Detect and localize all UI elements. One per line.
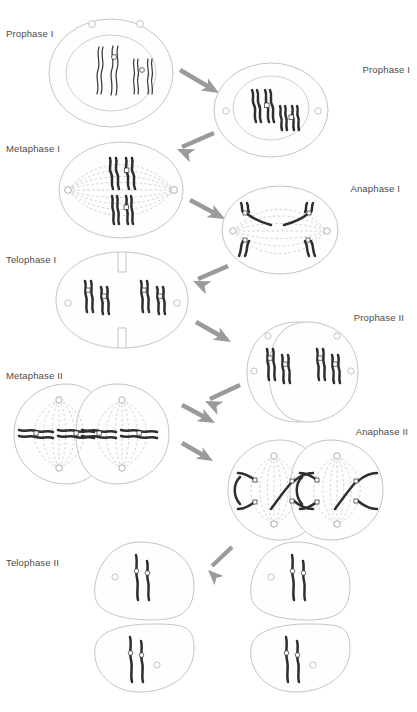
nucleolus-icon xyxy=(174,300,180,306)
centromere xyxy=(158,294,162,298)
arrow-prophase2-to-metaphase2 xyxy=(202,385,240,415)
stage-metaphase-1 xyxy=(59,142,183,238)
centromere xyxy=(112,55,117,60)
centromere xyxy=(295,653,300,658)
spindle-pole xyxy=(334,453,340,459)
stage-telophase-2 xyxy=(95,542,350,692)
meiosis-diagram-svg: Prophase I Prophase I xyxy=(0,0,417,712)
meiosis-diagram-canvas: Prophase I Prophase I xyxy=(0,0,417,712)
stage-metaphase-2 xyxy=(14,384,169,484)
centromere xyxy=(283,362,287,366)
label-anaphase-1: Anaphase I xyxy=(350,183,400,194)
centromere xyxy=(333,362,337,366)
cell-membrane xyxy=(214,63,328,157)
nucleolus-icon xyxy=(65,300,71,306)
nucleolus-icon xyxy=(310,662,316,668)
spindle-pole xyxy=(56,465,62,471)
label-metaphase-1: Metaphase I xyxy=(6,143,60,154)
nucleolus-icon xyxy=(112,574,118,580)
centromere xyxy=(307,211,311,215)
spindle-pole xyxy=(230,228,236,234)
label-prophase-1-late: Prophase I xyxy=(363,64,410,75)
centromere xyxy=(140,68,145,73)
centromere xyxy=(315,500,319,504)
arrow-prophase1early-to-prophase1late xyxy=(180,70,223,99)
centromere xyxy=(290,569,295,574)
centromere xyxy=(253,500,257,504)
centromere xyxy=(243,238,247,242)
centromere xyxy=(301,571,306,576)
centromere xyxy=(86,288,90,292)
label-anaphase-2: Anaphase II xyxy=(356,426,408,437)
label-telophase-1: Telophase I xyxy=(6,254,56,265)
centromere xyxy=(97,431,101,435)
stage-prophase-2 xyxy=(247,322,358,422)
arrow-prophase1late-to-metaphase1 xyxy=(174,133,214,162)
cell-membrane-upper-right xyxy=(251,542,350,620)
label-prophase-2: Prophase II xyxy=(354,312,404,323)
centromere xyxy=(142,288,146,292)
centromere xyxy=(268,356,272,360)
arrow-metaphase2-to-anaphase2-secondary xyxy=(182,443,216,467)
nucleolus-icon xyxy=(89,21,96,28)
centromere xyxy=(290,499,294,503)
spindle-pole xyxy=(271,453,277,459)
centromere xyxy=(139,653,144,658)
arrow-telophase1-to-prophase2 xyxy=(196,322,235,348)
centromere xyxy=(315,478,319,482)
label-metaphase-2: Metaphase II xyxy=(6,370,63,381)
centromere xyxy=(125,168,129,172)
nucleolus-icon xyxy=(348,368,354,374)
centromere xyxy=(243,211,247,215)
centromere xyxy=(253,478,257,482)
stage-telophase-1 xyxy=(56,252,188,348)
centromere xyxy=(306,238,310,242)
centromere xyxy=(145,571,150,576)
cell-membrane-right xyxy=(269,322,358,422)
arrow-anaphase1-to-telophase1 xyxy=(190,266,228,294)
centromere xyxy=(354,499,358,503)
centromere xyxy=(354,479,358,483)
centromere xyxy=(137,431,141,435)
centromere xyxy=(318,356,322,360)
centromere xyxy=(290,479,294,483)
spindle-pole xyxy=(119,465,125,471)
nucleolus-icon xyxy=(137,21,144,28)
centromere xyxy=(34,431,38,435)
spindle-pole xyxy=(324,228,330,234)
label-prophase-1-early: Prophase I xyxy=(6,28,53,39)
cell-membrane-lower-right xyxy=(251,624,350,692)
nucleolus-icon xyxy=(265,333,271,339)
nucleolus-icon xyxy=(334,333,340,339)
stage-prophase-1-early xyxy=(49,19,173,127)
spindle-pole xyxy=(65,187,72,194)
stage-anaphase-2 xyxy=(228,440,383,540)
centromere xyxy=(74,431,78,435)
centromere xyxy=(124,205,128,209)
centromere xyxy=(265,103,270,108)
nucleolus-icon xyxy=(223,108,229,114)
cell-membrane xyxy=(56,252,188,348)
spindle-pole xyxy=(56,397,62,403)
label-telophase-2: Telophase II xyxy=(6,557,59,568)
spindle-pole xyxy=(119,397,125,403)
nucleolus-icon xyxy=(315,108,321,114)
stage-anaphase-1 xyxy=(222,186,338,274)
spindle-pole xyxy=(334,521,340,527)
cell-membrane-lower-left xyxy=(95,624,194,692)
nucleolus-icon xyxy=(154,662,160,668)
spindle-pole xyxy=(271,521,277,527)
spindle-pole xyxy=(171,187,178,194)
cell-membrane-upper-left xyxy=(95,542,194,620)
centromere xyxy=(128,651,133,656)
nucleolus-icon xyxy=(268,574,274,580)
centromere xyxy=(134,569,139,574)
centromere xyxy=(102,294,106,298)
centromere xyxy=(284,651,289,656)
centromere xyxy=(289,115,293,119)
cell-membrane xyxy=(222,186,338,274)
nucleolus-icon xyxy=(251,368,257,374)
stage-prophase-1-late xyxy=(214,63,328,157)
arrow-anaphase2-to-telophase2 xyxy=(204,547,232,585)
